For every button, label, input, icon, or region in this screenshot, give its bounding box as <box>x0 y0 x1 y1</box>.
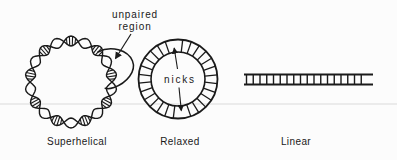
base-pair-rung <box>107 76 116 77</box>
nick-arrow-top <box>174 48 177 69</box>
figure: unpaired region nicks Superhelical Relax… <box>0 0 397 160</box>
base-pair-rung <box>26 73 35 75</box>
base-pair-rung <box>181 40 183 52</box>
base-pair-rung <box>82 117 85 126</box>
base-pair-rung <box>204 66 216 70</box>
base-pair-rung <box>150 98 159 107</box>
base-pair-rung <box>165 42 169 54</box>
base-pair-rung <box>201 94 212 101</box>
caption-relaxed: Relaxed <box>160 136 200 147</box>
unpaired-region-label-line1: unpaired <box>112 9 158 20</box>
base-pair-rung <box>197 51 206 60</box>
base-pair-rung <box>157 45 164 56</box>
base-pair-rung <box>193 46 200 57</box>
base-pair-rung <box>66 38 67 44</box>
base-pair-rung <box>205 82 217 84</box>
base-pair-rung <box>197 98 206 107</box>
base-pair-rung <box>157 102 164 113</box>
base-pair-rung <box>203 88 215 92</box>
base-pair-rung <box>201 58 212 65</box>
caption-superhelical: Superhelical <box>47 136 107 147</box>
base-pair-rung <box>205 75 217 76</box>
base-pair-rung <box>145 58 156 65</box>
dna-topology-diagram: unpaired region nicks Superhelical Relax… <box>0 0 397 160</box>
base-pair-rung <box>141 88 153 92</box>
base-pair-rung <box>144 93 155 100</box>
base-pair-rung <box>26 76 35 77</box>
base-pair-rung <box>57 117 60 126</box>
nick-arrow-bottom <box>179 88 181 111</box>
base-pair-rung <box>141 66 153 70</box>
base-pair-rung <box>139 74 151 76</box>
base-pair-rung <box>107 73 116 75</box>
caption-linear: Linear <box>281 136 311 147</box>
nicks-label: nicks <box>164 74 196 85</box>
linear-dna-drawing <box>244 75 373 85</box>
base-pair-rung <box>150 51 159 60</box>
unpaired-region-label-line2: region <box>118 21 151 32</box>
base-pair-rung <box>139 82 151 83</box>
base-pair-rung <box>165 104 169 116</box>
base-pair-rung <box>187 105 191 117</box>
base-pair-rung <box>187 42 191 54</box>
base-pair-rung <box>75 38 76 44</box>
base-pair-rung <box>173 106 175 118</box>
unpaired-region-loop <box>98 49 133 89</box>
